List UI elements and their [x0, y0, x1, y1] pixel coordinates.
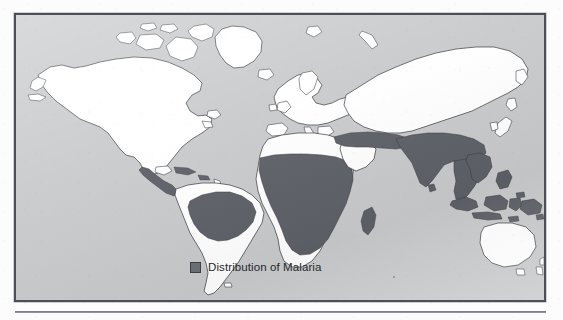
landmass-arctic-islet-b — [140, 23, 157, 31]
landmass-arctic-islet-a — [160, 24, 178, 33]
landmass-aleutians — [28, 94, 46, 101]
malaria-region-sumatra — [450, 197, 478, 211]
landmass-alaska-panhandle — [30, 77, 46, 91]
landmass-victoria-island — [136, 34, 164, 50]
landmass-falklands — [224, 283, 232, 287]
malaria-region-solomon-islands — [536, 214, 544, 220]
landmass-new-zealand-south — [536, 267, 543, 275]
malaria-region-timor — [508, 216, 519, 222]
landmass-north-america — [38, 57, 212, 175]
landmass-baffin — [166, 37, 198, 61]
landmass-ellesmere — [188, 24, 214, 41]
landmass-svalbard — [306, 26, 322, 37]
landmass-asia — [344, 47, 528, 133]
landmass-iceland — [258, 69, 274, 80]
landmass-banks-island — [116, 32, 136, 44]
figure-bottom-rule — [15, 311, 546, 313]
malaria-region-subsaharan-africa — [259, 154, 353, 255]
landmass-australia — [480, 223, 536, 267]
landmass-ireland — [269, 104, 277, 111]
malaria-region-borneo — [484, 195, 508, 211]
malaria-region-philippines — [496, 170, 512, 189]
scan-artifact-speck — [393, 276, 395, 278]
landmass-greenland — [215, 26, 262, 68]
malaria-region-cuba — [174, 167, 196, 175]
landmass-novaya-zemlya — [359, 31, 378, 49]
world-map-figure — [14, 13, 546, 302]
map-legend: Distribution of Malaria — [190, 262, 322, 274]
landmass-iberia — [266, 123, 288, 136]
malaria-region-maluku — [516, 192, 525, 198]
world-map-graphic — [16, 15, 544, 300]
malaria-region-hispaniola — [198, 175, 210, 180]
landmass-korea — [490, 122, 498, 131]
malaria-region-new-guinea — [520, 199, 542, 215]
malaria-region-madagascar — [361, 207, 376, 235]
malaria-region-java — [472, 212, 502, 220]
landmass-tasmania — [516, 269, 525, 275]
legend-label-malaria: Distribution of Malaria — [208, 262, 322, 274]
landmass-new-zealand-north — [540, 257, 544, 265]
legend-swatch-malaria — [190, 262, 201, 273]
landmass-yucatan — [155, 166, 172, 175]
malaria-region-sri-lanka — [428, 184, 436, 192]
figure-root: Distribution of Malaria — [0, 0, 563, 320]
landmass-sakhalin — [506, 98, 517, 111]
